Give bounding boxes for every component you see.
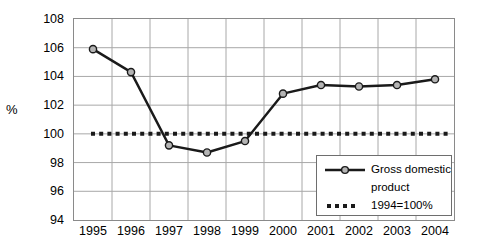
- legend-label-line2: product: [371, 181, 409, 193]
- y-axis-unit-label: %: [6, 102, 18, 117]
- x-tick-label-1997: 1997: [149, 225, 189, 238]
- chart-legend: Gross domestic product 1994=100%: [316, 155, 452, 216]
- x-tick-label-2004: 2004: [415, 225, 455, 238]
- y-tick-label-94: 94: [34, 214, 64, 227]
- x-tick-label-2001: 2001: [301, 225, 341, 238]
- y-tick-label-96: 96: [34, 185, 64, 198]
- x-tick-label-1999: 1999: [225, 225, 265, 238]
- y-tick-label-108: 108: [34, 13, 64, 26]
- x-tick-label-1996: 1996: [111, 225, 151, 238]
- legend-entry-gross-domestic-product: Gross domestic: [317, 160, 451, 180]
- y-tick-label-100: 100: [34, 128, 64, 141]
- legend-entry-reference-line: 1994=100%: [317, 196, 451, 216]
- line-marker-sample-icon: [323, 160, 367, 180]
- y-tick-label-98: 98: [34, 157, 64, 170]
- dotted-line-sample-icon: [323, 196, 367, 216]
- y-tick-label-102: 102: [34, 99, 64, 112]
- x-tick-label-2000: 2000: [263, 225, 303, 238]
- legend-entry-gross-domestic-product-continued: product: [317, 178, 451, 198]
- legend-label-line1: Gross domestic: [371, 163, 451, 175]
- gdp-index-line-chart: % 108106104102100989694 1995199619971998…: [0, 0, 486, 250]
- y-tick-label-104: 104: [34, 70, 64, 83]
- y-axis-tick-labels: 108106104102100989694: [30, 0, 64, 250]
- x-tick-label-2002: 2002: [339, 225, 379, 238]
- legend-label-reference: 1994=100%: [371, 199, 433, 211]
- x-tick-label-1998: 1998: [187, 225, 227, 238]
- x-tick-label-2003: 2003: [377, 225, 417, 238]
- x-tick-label-1995: 1995: [73, 225, 113, 238]
- y-tick-label-106: 106: [34, 42, 64, 55]
